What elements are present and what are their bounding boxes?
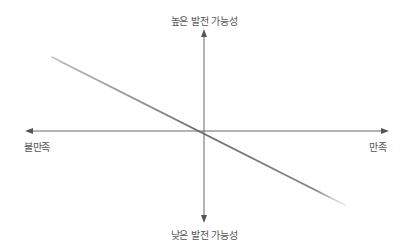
vertical-axis bbox=[201, 29, 207, 223]
satisfied-label: 만족 bbox=[369, 139, 386, 154]
high-potential-label: 높은 발전 가능성 bbox=[171, 13, 238, 28]
arrow-up-icon bbox=[201, 29, 207, 37]
quadrant-diagram: 높은 발전 가능성 낮은 발전 가능성 불만족 만족 bbox=[0, 0, 412, 250]
arrow-down-icon bbox=[201, 215, 207, 223]
arrow-right-icon bbox=[381, 128, 389, 134]
low-potential-label: 낮은 발전 가능성 bbox=[171, 227, 238, 242]
dissatisfied-label: 불만족 bbox=[24, 139, 50, 154]
diagram-svg bbox=[0, 0, 412, 250]
horizontal-axis bbox=[25, 128, 389, 134]
arrow-left-icon bbox=[25, 128, 33, 134]
